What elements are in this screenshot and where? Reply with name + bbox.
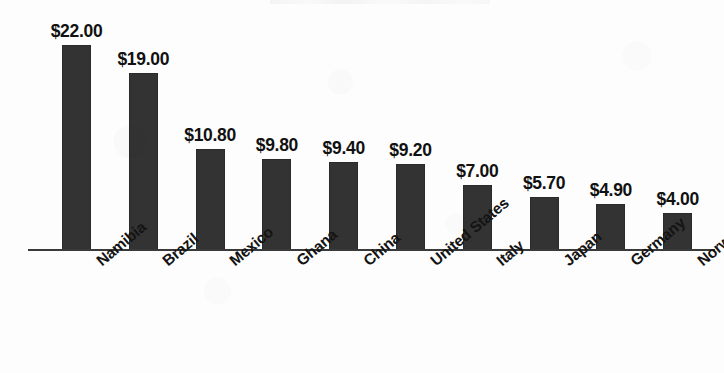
category-label: Brazil bbox=[159, 256, 171, 270]
category-label: Ghana bbox=[293, 256, 305, 270]
category-label: Japan bbox=[560, 256, 572, 270]
plot-area: $22.00$19.00$10.80$9.80$9.40$9.20$7.00$5… bbox=[0, 0, 724, 250]
bar-value-label: $22.00 bbox=[32, 21, 122, 42]
category-label: Norway bbox=[694, 256, 706, 270]
bar bbox=[196, 149, 225, 250]
category-label: Germany bbox=[627, 256, 639, 270]
bar-chart: $22.00$19.00$10.80$9.80$9.40$9.20$7.00$5… bbox=[0, 0, 724, 373]
bar bbox=[396, 164, 425, 250]
bar-value-label: $9.20 bbox=[366, 140, 456, 161]
category-label: Mexico bbox=[226, 256, 238, 270]
bar bbox=[530, 197, 559, 250]
category-label: Namibia bbox=[93, 256, 105, 270]
bar-value-label: $19.00 bbox=[98, 49, 188, 70]
category-label: China bbox=[360, 256, 372, 270]
category-label: Italy bbox=[493, 256, 505, 270]
bar-value-label: $4.00 bbox=[633, 189, 723, 210]
category-label: United States bbox=[427, 256, 439, 270]
bar bbox=[62, 45, 91, 250]
